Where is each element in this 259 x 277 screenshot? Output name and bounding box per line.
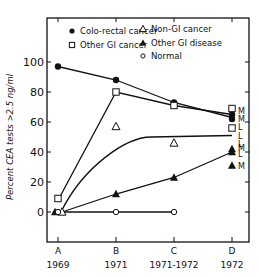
legend: Colo-rectal cancerOther GI cancerNon-GI …: [69, 24, 222, 61]
x-tick-label: B: [113, 246, 119, 256]
plot-frame: [47, 18, 249, 242]
series-line: [62, 152, 232, 212]
open-square-marker: [55, 195, 61, 201]
open-circle-marker: [113, 209, 118, 214]
d-annotations: MMLLLMLM: [238, 107, 245, 171]
filled-circle-marker: [69, 28, 74, 33]
d-annotation-label: L: [238, 150, 243, 159]
series-lines: [58, 67, 232, 213]
y-tick-label: 20: [30, 176, 44, 189]
legend-label: Normal: [151, 51, 182, 61]
legend-label: Non-GI cancer: [151, 24, 212, 34]
open-square-marker: [69, 42, 74, 47]
y-tick-label: 80: [30, 86, 44, 99]
open-square-marker: [229, 125, 235, 131]
open-circle-marker: [55, 209, 60, 214]
y-axis-label: Percent CEA tests >2.5 ng/ml: [5, 73, 15, 200]
d-annotation-label: M: [238, 162, 245, 171]
open-triangle-marker: [112, 122, 120, 129]
y-tick-label: 0: [37, 206, 44, 219]
x-year-label: 1972: [221, 260, 244, 270]
y-tick-label: 60: [30, 116, 44, 129]
x-tick-label: D: [229, 246, 236, 256]
x-tick-label: C: [171, 246, 177, 256]
filled-circle-marker: [229, 116, 235, 122]
y-tick-label: 40: [30, 146, 44, 159]
open-square-marker: [171, 102, 177, 108]
x-year-label: 1971: [105, 260, 128, 270]
open-square-marker: [113, 89, 119, 95]
filled-triangle-marker: [228, 161, 236, 168]
axes: 020406080100A1969B1971C1971-1972D1972: [23, 18, 249, 270]
x-tick-label: A: [55, 246, 62, 256]
filled-triangle-marker: [170, 173, 178, 180]
legend-label: Other GI cancer: [80, 40, 148, 50]
legend-label: Other GI disease: [151, 38, 222, 48]
x-year-label: 1969: [47, 260, 70, 270]
y-tick-label: 100: [23, 56, 44, 69]
series-line: [59, 92, 232, 199]
filled-circle-marker: [55, 63, 61, 69]
open-triangle-marker: [170, 139, 178, 146]
open-circle-marker: [171, 209, 176, 214]
filled-circle-marker: [113, 77, 119, 83]
series-markers: [51, 63, 236, 215]
chart-canvas: 020406080100A1969B1971C1971-1972D1972 Co…: [0, 0, 259, 277]
open-circle-marker: [141, 54, 145, 58]
x-year-label: 1971-1972: [149, 260, 198, 270]
cea-chart: 020406080100A1969B1971C1971-1972D1972 Co…: [0, 0, 259, 277]
open-square-marker: [229, 105, 235, 111]
